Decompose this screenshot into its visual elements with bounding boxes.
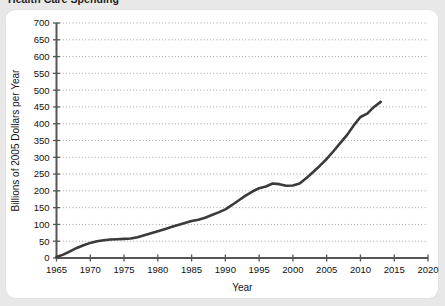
x-axis-tick-label: 2015: [384, 264, 405, 275]
data-line-health-care-spending: [57, 102, 381, 257]
y-axis-title: Billions of 2005 Dollars per Year: [10, 69, 21, 211]
line-chart-plot: 0501001502002503003504004505005506006507…: [0, 0, 445, 306]
y-axis-tick-label: 250: [34, 168, 50, 179]
data-series-group: [57, 102, 381, 257]
chart-figure: Health Care Spending 0501001502002503003…: [0, 0, 445, 306]
y-axis-tick-label: 600: [34, 51, 50, 62]
y-axis-tick-label: 650: [34, 34, 50, 45]
y-axis-tick-label: 500: [34, 85, 50, 96]
x-axis-tick-label: 2010: [350, 264, 371, 275]
x-axis: 1965197019751980198519901995200020052010…: [46, 255, 439, 276]
x-axis-tick-label: 2005: [316, 264, 337, 275]
y-axis-tick-label: 450: [34, 101, 50, 112]
x-axis-tick-label: 1975: [113, 264, 134, 275]
x-axis-tick-label: 2000: [282, 264, 303, 275]
y-axis-tick-label: 550: [34, 68, 50, 79]
y-axis-tick-label: 150: [34, 202, 50, 213]
x-axis-tick-label: 1965: [46, 264, 67, 275]
y-axis-tick-label: 0: [44, 252, 49, 263]
x-axis-tick-label: 1985: [181, 264, 202, 275]
x-axis-tick-label: 1970: [80, 264, 101, 275]
y-axis: 0501001502002503003504004505005506006507…: [34, 17, 60, 263]
y-axis-tick-label: 350: [34, 135, 50, 146]
y-axis-tick-label: 400: [34, 118, 50, 129]
gridlines-group: [57, 23, 429, 241]
x-axis-tick-label: 1990: [215, 264, 236, 275]
x-axis-tick-label: 1980: [147, 264, 168, 275]
y-axis-tick-label: 300: [34, 152, 50, 163]
x-axis-tick-label: 1995: [249, 264, 270, 275]
y-axis-tick-label: 200: [34, 185, 50, 196]
y-axis-tick-label: 50: [39, 236, 50, 247]
y-axis-tick-label: 100: [34, 219, 50, 230]
x-axis-title: Year: [232, 282, 253, 293]
y-axis-tick-label: 700: [34, 17, 50, 28]
x-axis-tick-label: 2020: [417, 264, 438, 275]
